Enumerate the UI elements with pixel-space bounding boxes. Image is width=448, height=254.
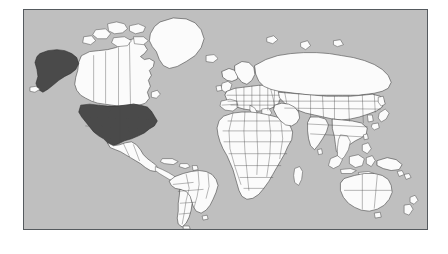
world-map-figure	[23, 9, 428, 230]
page-root	[0, 0, 448, 254]
landmass-sri-lanka	[318, 149, 323, 155]
landmass-ireland	[216, 85, 222, 91]
landmass-tierra-del-fuego	[183, 226, 190, 229]
world-map-svg	[24, 10, 427, 229]
landmass-falklands	[202, 215, 208, 220]
landmass-taiwan	[363, 134, 368, 140]
landmass-caribbean-islands	[192, 166, 198, 171]
landmass-korea	[367, 115, 373, 122]
landmass-tasmania	[374, 212, 381, 218]
